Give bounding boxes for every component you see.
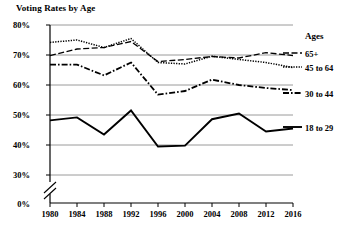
chart-plot-area bbox=[0, 0, 341, 230]
series-line-65 bbox=[50, 42, 293, 62]
series-line-30-to-44 bbox=[50, 63, 293, 95]
axis-lines-group bbox=[50, 25, 293, 203]
x-tick-marks-group bbox=[50, 203, 293, 207]
chart-container: Voting Rates by Age 80% 70% 60% 50% 40% … bbox=[0, 0, 341, 230]
axis-break-slash-1 bbox=[44, 182, 56, 193]
gridlines-group bbox=[50, 25, 293, 175]
series-line-45-to-64 bbox=[50, 39, 293, 68]
series-line-18-to-29 bbox=[50, 111, 293, 147]
